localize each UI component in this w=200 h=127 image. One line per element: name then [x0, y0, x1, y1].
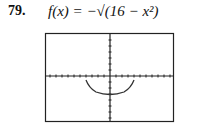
graph-window — [0, 0, 200, 127]
